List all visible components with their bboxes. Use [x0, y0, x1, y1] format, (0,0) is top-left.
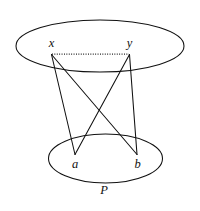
lower-region-oval — [49, 134, 163, 183]
upper-region-oval — [16, 20, 184, 72]
node-label-x: x — [48, 36, 55, 50]
node-label-b: b — [134, 157, 140, 171]
edge-x-b — [52, 55, 138, 155]
edge-y-a — [75, 55, 130, 155]
node-label-y: y — [125, 36, 133, 50]
node-label-a: a — [72, 157, 78, 171]
set-label-p: P — [99, 183, 108, 197]
diagram-svg: x y a b P — [0, 0, 200, 211]
figure-canvas: x y a b P — [0, 0, 200, 211]
